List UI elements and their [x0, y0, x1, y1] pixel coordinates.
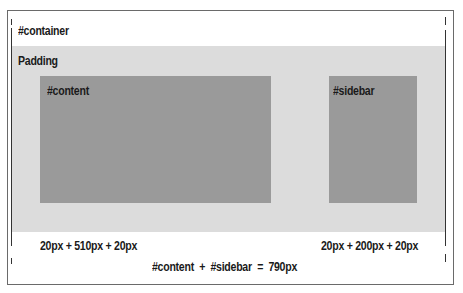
- left-guide-tick-bottom: [11, 258, 12, 264]
- left-guide-tick-top: [11, 19, 12, 25]
- total-width-calc: #content + #sidebar = 790px: [152, 260, 297, 274]
- sidebar-label: #sidebar: [333, 84, 374, 98]
- content-label: #content: [47, 84, 89, 98]
- content-width-calc: 20px + 510px + 20px: [40, 239, 137, 253]
- padding-label: Padding: [18, 54, 58, 68]
- container-label: #container: [18, 24, 69, 38]
- right-guide-tick-bottom: [445, 254, 446, 262]
- left-guide-line: [11, 28, 12, 246]
- right-guide-line: [445, 30, 446, 246]
- right-guide-tick-top: [445, 17, 446, 25]
- sidebar-box: #sidebar: [329, 76, 417, 203]
- content-box: #content: [40, 76, 271, 203]
- sidebar-width-calc: 20px + 200px + 20px: [321, 239, 418, 253]
